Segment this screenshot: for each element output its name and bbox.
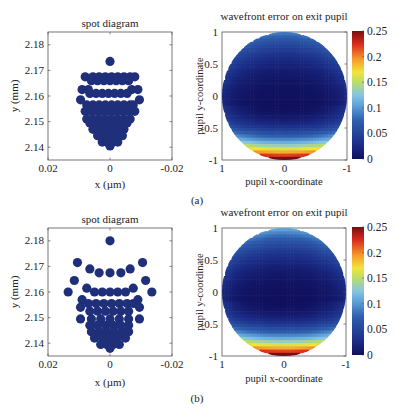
- colorbar-tick-label: 0.1: [367, 102, 382, 114]
- y-axis-label: pupil y-coordinate: [194, 57, 205, 135]
- y-tick-label: 2.16: [25, 90, 45, 102]
- spot-point: [135, 303, 144, 312]
- spot-point: [121, 287, 130, 296]
- x-axis-label: pupil x-coordinate: [245, 176, 323, 187]
- wavefront-map-b: wavefront error on exit pupil 10.50-0.5-…: [194, 206, 387, 384]
- y-tick-label: 2.17: [25, 64, 45, 76]
- x-axis-label: x (µm): [95, 376, 126, 389]
- x-tick-label: -0.02: [161, 358, 184, 370]
- y-tick-label: 2.18: [25, 38, 45, 50]
- x-tick-label: 0: [107, 358, 113, 370]
- x-tick-label: -1: [342, 162, 351, 174]
- colorbar-tick-label: 0.2: [367, 247, 382, 259]
- chart-title: wavefront error on exit pupil: [220, 206, 347, 218]
- y-tick-label: 0: [213, 90, 219, 102]
- colorbar-tick-label: 0.25: [367, 221, 387, 233]
- spot-point: [115, 340, 124, 349]
- y-tick-label: 2.18: [25, 234, 45, 246]
- y-tick-label: 2.14: [25, 337, 45, 349]
- panel-label-b: (b): [191, 392, 204, 405]
- y-tick-label: 0: [213, 286, 219, 298]
- y-tick-label: 2.17: [25, 260, 45, 272]
- x-axis-ticks: 10-1: [219, 162, 351, 174]
- spot-point: [147, 287, 156, 296]
- colorbar-ticks: 00.050.10.150.20.25: [362, 25, 387, 165]
- x-tick-label: -0.02: [161, 162, 184, 174]
- spot-point: [116, 268, 125, 277]
- colorbar-tick-label: 0: [367, 153, 373, 165]
- colorbar: [352, 31, 364, 159]
- y-tick-label: -1: [209, 154, 218, 166]
- y-tick-label: 0.5: [204, 254, 218, 266]
- colorbar-tick-label: 0.05: [367, 323, 387, 335]
- y-tick-label: 2.16: [25, 286, 45, 298]
- x-axis-ticks: 10-1: [219, 358, 350, 370]
- spot-point: [105, 57, 114, 66]
- panel-label-a: (a): [191, 194, 204, 207]
- colorbar-tick-label: 0.15: [367, 76, 387, 88]
- colorbar-tick-label: 0.25: [367, 25, 387, 37]
- spot-point: [105, 344, 114, 353]
- spot-point: [122, 89, 131, 98]
- x-tick-label: 0.02: [38, 162, 57, 174]
- spot-point: [126, 264, 135, 273]
- colorbar-tick-label: 0.2: [367, 51, 382, 63]
- x-tick-label: -1: [341, 358, 350, 370]
- y-axis-label: y (mm): [8, 79, 21, 112]
- y-tick-label: 1: [213, 222, 219, 234]
- spot-point: [76, 314, 85, 323]
- spot-point: [85, 264, 94, 273]
- x-tick-label: 1: [219, 358, 225, 370]
- y-tick-label: 2.14: [25, 141, 45, 153]
- spot-diagram-a: spot diagram 2.142.152.162.172.18 0.020-…: [8, 17, 183, 191]
- spot-point: [135, 314, 144, 323]
- spot-point: [138, 258, 147, 267]
- colorbar-ticks: 00.050.10.150.20.25: [362, 221, 387, 361]
- y-tick-label: -1: [209, 350, 218, 362]
- spot-point: [124, 76, 133, 85]
- y-tick-label: 2.15: [25, 115, 45, 127]
- spot-point: [70, 276, 79, 285]
- y-axis-label: y (mm): [8, 275, 21, 308]
- y-axis-label: pupil y-coordinate: [194, 253, 205, 331]
- colorbar-tick-label: 0.1: [367, 298, 382, 310]
- colorbar-tick-label: 0: [367, 349, 373, 361]
- colorbar-tick-label: 0.15: [367, 272, 387, 284]
- spot-point: [73, 258, 82, 267]
- spot-point: [76, 303, 85, 312]
- x-axis-label: x (µm): [95, 178, 126, 191]
- x-axis-label: pupil x-coordinate: [245, 373, 323, 384]
- figure: spot diagram 2.142.152.162.172.18 0.020-…: [0, 0, 396, 414]
- chart-title: wavefront error on exit pupil: [220, 10, 347, 22]
- spot-point: [130, 107, 139, 116]
- spot-point: [105, 141, 114, 150]
- colorbar: [352, 227, 364, 355]
- y-tick-label: 2.15: [25, 311, 45, 323]
- spot-point: [105, 268, 114, 277]
- colorbar-tick-label: 0.05: [367, 127, 387, 139]
- spot-diagram-b: spot diagram 2.142.152.162.172.18 0.020-…: [8, 213, 183, 389]
- y-tick-label: 1: [213, 26, 219, 38]
- spot-point: [141, 276, 150, 285]
- chart-title: spot diagram: [81, 17, 139, 29]
- x-tick-label: 0: [282, 162, 288, 174]
- spot-point: [105, 236, 114, 245]
- wavefront-map-a: wavefront error on exit pupil 10.50-0.5-…: [194, 10, 387, 187]
- x-tick-label: 0.02: [38, 358, 57, 370]
- chart-title: spot diagram: [81, 213, 139, 225]
- spot-point: [64, 287, 73, 296]
- spot-point: [133, 85, 142, 94]
- x-tick-label: 0: [281, 358, 287, 370]
- x-tick-label: 0: [107, 162, 113, 174]
- y-tick-label: 0.5: [204, 58, 218, 70]
- x-tick-label: 1: [219, 162, 225, 174]
- spot-point: [95, 268, 104, 277]
